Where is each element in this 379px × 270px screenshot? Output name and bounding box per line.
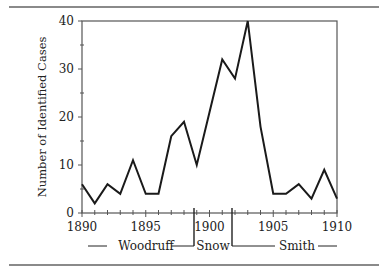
y-tick-label: 40 xyxy=(59,14,74,28)
x-tick-label: 1890 xyxy=(67,220,98,234)
x-tick-label: 1910 xyxy=(322,220,353,234)
y-tick-label: 10 xyxy=(59,158,74,172)
period-label-snow: Snow xyxy=(196,239,230,253)
y-tick-label: 20 xyxy=(59,110,74,124)
y-axis: 010203040 xyxy=(59,14,84,220)
y-axis-title: Number of Identified Cases xyxy=(35,37,49,198)
x-tick-label: 1900 xyxy=(194,220,225,234)
period-label-woodruff: Woodruff xyxy=(118,239,175,253)
cases-line xyxy=(82,21,337,203)
y-tick-label: 30 xyxy=(59,62,74,76)
y-tick-label: 0 xyxy=(66,206,74,220)
x-tick-label: 1895 xyxy=(130,220,161,234)
line-chart: 010203040 18901895190019051910 Number of… xyxy=(0,0,379,270)
x-axis: 18901895190019051910 xyxy=(67,210,353,234)
x-tick-label: 1905 xyxy=(258,220,289,234)
period-label-smith: Smith xyxy=(279,239,315,253)
